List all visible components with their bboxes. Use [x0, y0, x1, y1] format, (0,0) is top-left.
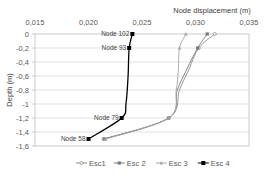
- node-label: Node 79: [94, 114, 119, 121]
- y-tick-label: 0: [25, 30, 29, 39]
- node-label: Node 58: [61, 135, 86, 142]
- legend-item: Esc 2: [114, 159, 146, 168]
- legend-label: Esc 2: [127, 159, 146, 168]
- x-tick-label: 0,020: [79, 18, 98, 27]
- y-tick-label: -1,2: [16, 114, 29, 123]
- y-axis-title: Depth (m): [5, 73, 14, 107]
- node-annotations: Node 102Node 93Node 79Node 58: [61, 30, 130, 142]
- legend: Esc1Esc 2Esc 3Esc 4: [76, 159, 230, 168]
- y-tick-label: -0,2: [16, 44, 29, 53]
- x-axis-title: Node displacement (m): [173, 6, 251, 15]
- node-label: Node 102: [101, 30, 130, 37]
- legend-item: Esc1: [76, 159, 106, 168]
- x-tick-label: 0,035: [240, 18, 259, 27]
- x-tick-label: 0,030: [186, 18, 205, 27]
- legend-label: Esc1: [89, 159, 106, 168]
- legend-item: Esc 4: [198, 159, 230, 168]
- y-tick-label: -0,4: [16, 58, 29, 67]
- x-tick-label: 0,025: [133, 18, 152, 27]
- y-tick-label: -0,8: [16, 86, 29, 95]
- x-tick-label: 0,015: [26, 18, 45, 27]
- y-axis-ticks: 0-0,2-0,4-0,6-0,8-1-1,2-1,4-1,6: [16, 30, 29, 151]
- y-tick-label: -0,6: [16, 72, 29, 81]
- legend-label: Esc 3: [169, 159, 188, 168]
- y-tick-label: -1,4: [16, 128, 29, 137]
- y-tick-label: -1,6: [16, 142, 29, 151]
- node-label: Node 93: [102, 44, 127, 51]
- legend-item: Esc 3: [156, 159, 188, 168]
- x-axis-ticks: 0,0150,0200,0250,0300,035: [26, 18, 259, 27]
- y-tick-label: -1: [22, 100, 29, 109]
- displacement-depth-chart: Node displacement (m) 0,0150,0200,0250,0…: [0, 0, 265, 180]
- legend-label: Esc 4: [211, 159, 230, 168]
